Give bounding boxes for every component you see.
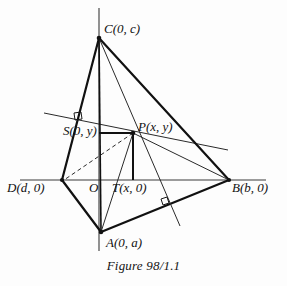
geometry-drawing xyxy=(0,0,287,286)
vertex-dot-B xyxy=(227,178,231,182)
label-point-A: A(0, a) xyxy=(106,236,142,249)
segment-CD xyxy=(62,38,99,180)
label-point-B: B(b, 0) xyxy=(232,181,268,194)
right-angle-mark-at-AB xyxy=(161,197,169,205)
label-point-P: P(x, y) xyxy=(138,120,173,133)
figure-caption: Figure 98/1.1 xyxy=(0,258,287,274)
vertex-dot-C xyxy=(97,36,102,41)
figure-container: C(0, c) A(0, a) B(b, 0) D(d, 0) P(x, y) … xyxy=(0,0,287,286)
label-point-D: D(d, 0) xyxy=(7,181,45,194)
vertex-dot-D xyxy=(60,178,64,182)
segment-BC xyxy=(99,38,229,180)
label-point-O: O xyxy=(89,181,98,194)
label-point-S: S(0, y) xyxy=(63,124,97,137)
label-point-C: C(0, c) xyxy=(104,22,140,35)
vertex-dot-P xyxy=(131,131,136,136)
vertex-dot-A xyxy=(99,230,104,235)
label-point-T: T(x, 0) xyxy=(112,181,147,194)
